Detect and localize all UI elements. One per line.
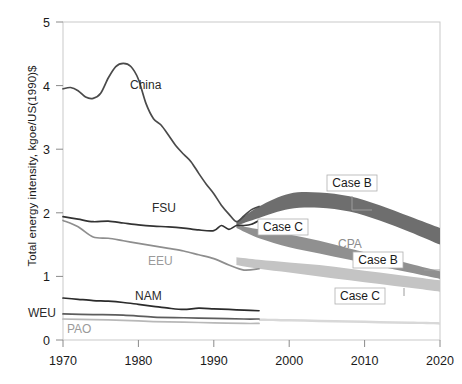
x-tick-label: 2000 — [275, 354, 303, 368]
x-tick-label: 2010 — [351, 354, 379, 368]
chart-figure: Total energy intensity, kgoe/US(1990)$ 0… — [0, 0, 462, 384]
annotation-fsu: FSU — [152, 201, 176, 215]
annotation-case-c: Case C — [340, 289, 380, 303]
y-axis-ticks: 012345 — [43, 16, 63, 348]
annotation-eeu: EEU — [148, 254, 173, 268]
annotation-weu: WEU — [28, 306, 56, 320]
y-tick-label: 1 — [43, 270, 50, 284]
energy-intensity-chart: 012345 197019801990200020102020 ChinaFSU… — [0, 0, 462, 384]
y-tick-label: 4 — [43, 80, 50, 94]
y-tick-label: 3 — [43, 143, 50, 157]
annotation-pao: PAO — [67, 322, 91, 336]
annotation-case-c: Case C — [263, 220, 303, 234]
y-tick-label: 2 — [43, 207, 50, 221]
x-axis-ticks: 197019801990200020102020 — [49, 340, 454, 368]
annotation-nam: NAM — [135, 289, 162, 303]
x-tick-label: 1980 — [124, 354, 152, 368]
annotation-case-b: Case B — [358, 253, 397, 267]
y-tick-label: 5 — [43, 16, 50, 30]
x-tick-label: 1990 — [200, 354, 228, 368]
y-tick-label: 0 — [43, 334, 50, 348]
x-tick-label: 2020 — [426, 354, 454, 368]
annotation-case-b: Case B — [332, 176, 371, 190]
annotation-cpa: CPA — [338, 237, 362, 251]
annotation-china: China — [130, 78, 162, 92]
y-axis-title: Total energy intensity, kgoe/US(1990)$ — [26, 46, 38, 286]
x-tick-label: 1970 — [49, 354, 77, 368]
